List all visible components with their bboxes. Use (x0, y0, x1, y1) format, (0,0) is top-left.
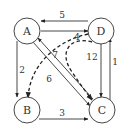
edge-d-c-dashed (66, 41, 92, 100)
node-b: B (14, 97, 40, 123)
edge-label-d-c: 12 (86, 52, 97, 62)
node-label-b: B (23, 104, 31, 117)
edge-label-a-c: 6 (46, 74, 52, 84)
edge-label-c-d: 1 (112, 57, 118, 67)
node-label-d: D (97, 25, 106, 38)
edge-label-b-c: 3 (59, 108, 65, 118)
node-d: D (88, 18, 114, 44)
node-label-a: A (22, 25, 32, 38)
edge-a-c (33, 42, 90, 106)
edge-label-a-b: 2 (19, 65, 25, 75)
edge-label-d-b-dashed: 4 (74, 32, 80, 42)
node-a: A (14, 18, 40, 44)
weighted-directed-graph: 5 2 6 7 3 12 1 4 A D B C (0, 0, 123, 136)
node-label-c: C (98, 104, 106, 117)
edge-d-b-dashed (28, 34, 88, 98)
edge-label-c-a: 7 (52, 50, 58, 60)
node-c: C (89, 97, 115, 123)
edge-label-d-a: 5 (59, 10, 65, 20)
